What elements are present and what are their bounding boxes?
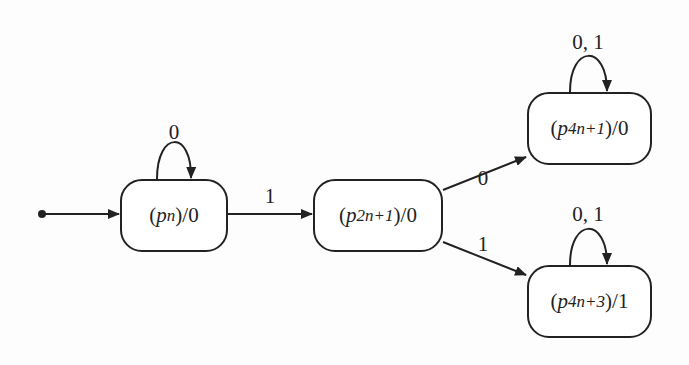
state-label-output: )/0 [394,203,417,228]
edge-label-p4n3-self: 0, 1 [572,202,604,227]
state-label-sub: 2n+1 [357,206,394,226]
state-label-output: )/0 [175,203,198,228]
state-label-var: p [346,203,357,228]
state-label-sub: 4n+1 [568,119,605,139]
edge-label-p2n1-p4n1: 0 [478,166,489,191]
state-label-output: )/1 [605,289,628,314]
edge-label-pn-self: 0 [169,120,180,145]
edge-p4n3-self [570,229,607,265]
state-label-var: p [156,203,167,228]
state-pn: (pn)/0 [120,179,228,252]
state-label-output: )/0 [605,116,628,141]
state-label-open: ( [551,289,558,314]
edge-label-p4n1-self: 0, 1 [572,30,604,55]
edge-label-pn-p2n1: 1 [265,184,276,209]
state-diagram: 0 1 0 1 0, 1 0, 1 (pn)/0 (p2n+1)/0 (p4n+… [0,0,689,365]
edge-p4n1-self [570,56,607,92]
state-p2n1: (p2n+1)/0 [313,179,443,252]
state-p4n3: (p4n+3)/1 [527,265,652,338]
state-label-var: p [558,116,569,141]
edge-pn-self [157,142,191,179]
state-label-var: p [558,289,569,314]
state-label-sub: n [167,206,176,226]
state-p4n1: (p4n+1)/0 [527,92,652,165]
edge-label-p2n1-p4n3: 1 [478,232,489,257]
state-label-open: ( [551,116,558,141]
state-label-sub: 4n+3 [568,292,605,312]
